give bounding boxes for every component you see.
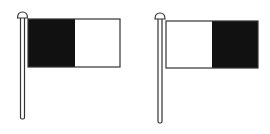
flag-light-half	[75, 19, 120, 67]
flag-light-half	[166, 21, 212, 68]
flag-pole-icon	[155, 13, 165, 123]
flag-pole-icon	[18, 12, 28, 119]
left-flag	[18, 12, 121, 119]
flag-dark-half	[28, 19, 75, 67]
flags-illustration	[0, 0, 270, 134]
flag-dark-half	[212, 21, 258, 68]
flags-svg	[0, 0, 270, 134]
right-flag	[155, 13, 258, 123]
